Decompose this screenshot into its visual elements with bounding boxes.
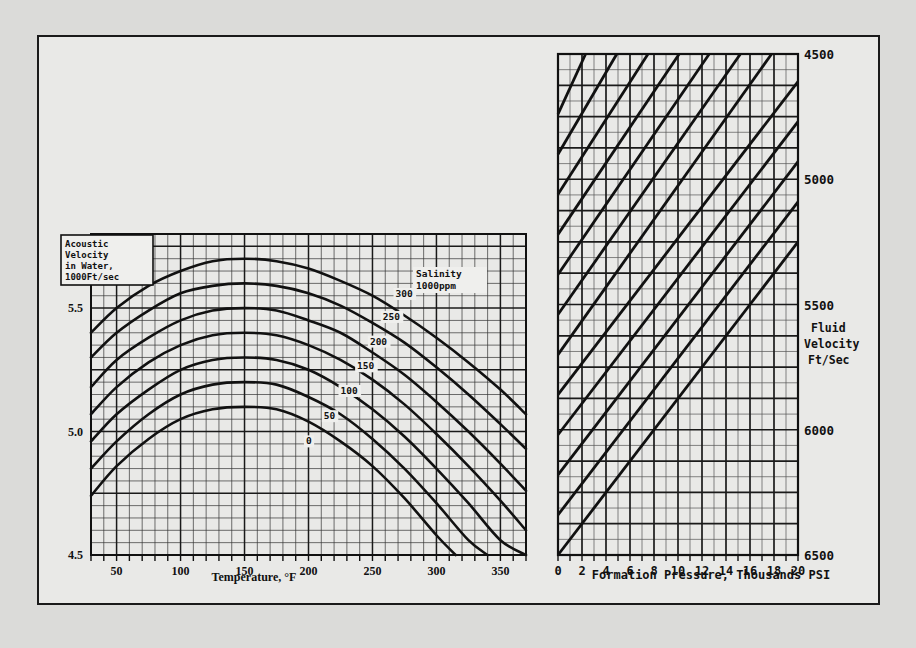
right-chart-y-axis-title: Fluid Velocity Ft/Sec: [804, 321, 859, 367]
salinity-header-line-2: 1000ppm: [416, 280, 456, 291]
right-x-tick-label: 0: [554, 564, 561, 578]
figure-frame: 50100150200250300350 5.55.04.5 300250200…: [37, 35, 880, 605]
left-x-tick-label: 350: [491, 564, 509, 578]
left-chart-y-tick-labels: 5.55.04.5: [68, 301, 83, 562]
left-curve-label: 50: [322, 410, 338, 422]
legend-line-1: Acoustic: [65, 239, 108, 249]
scanned-page: 50100150200250300350 5.55.04.5 300250200…: [0, 0, 916, 648]
right-x-tick-label: 2: [578, 564, 585, 578]
fluid-velocity-line-3: Ft/Sec: [808, 353, 850, 367]
left-x-tick-label: 50: [111, 564, 123, 578]
left-x-tick-label: 300: [427, 564, 445, 578]
left-y-tick-label: 4.5: [68, 548, 83, 562]
salinity-header-line-1: Salinity: [416, 268, 462, 279]
svg-text:0: 0: [306, 435, 312, 446]
left-chart: 50100150200250300350 5.55.04.5 300250200…: [61, 234, 526, 584]
left-curve-label: 100: [338, 385, 361, 397]
left-curve-label: 200: [368, 336, 391, 348]
right-y-tick-label: 5000: [804, 172, 834, 187]
left-chart-x-tick-labels: 50100150200250300350: [111, 564, 510, 578]
svg-text:100: 100: [340, 385, 357, 396]
left-y-tick-label: 5.0: [68, 425, 83, 439]
svg-text:50: 50: [324, 410, 336, 421]
left-curve-label: 150: [355, 360, 378, 372]
left-curve-label: 250: [381, 311, 404, 323]
svg-text:150: 150: [357, 360, 374, 371]
left-x-tick-label: 100: [172, 564, 190, 578]
right-y-tick-label: 5500: [804, 298, 834, 313]
left-chart-x-axis-title: Temperature, °F: [212, 570, 297, 584]
svg-text:200: 200: [370, 336, 387, 347]
right-chart: 02468101214161820 65006000550050004500 F…: [554, 47, 859, 582]
right-y-tick-label: 6500: [804, 548, 834, 563]
left-curve-label: 300: [394, 288, 417, 300]
left-x-tick-label: 250: [363, 564, 381, 578]
right-chart-x-ticks: [558, 555, 798, 561]
legend-line-2: Velocity: [65, 250, 109, 260]
right-y-tick-label: 6000: [804, 423, 834, 438]
legend-line-3: in Water,: [65, 261, 114, 271]
svg-text:300: 300: [396, 288, 413, 299]
salinity-header: Salinity 1000ppm: [413, 267, 487, 293]
right-chart-x-axis-title: Formation Pressure, Thousands PSI: [592, 568, 830, 582]
left-curve-label: 0: [304, 435, 314, 447]
left-chart-legend-box: Acoustic Velocity in Water, 1000Ft/sec: [61, 235, 153, 285]
left-x-tick-label: 200: [300, 564, 318, 578]
right-chart-y-tick-labels: 65006000550050004500: [804, 47, 834, 563]
svg-text:250: 250: [383, 311, 400, 322]
fluid-velocity-line-1: Fluid: [811, 321, 846, 335]
figure-canvas: 50100150200250300350 5.55.04.5 300250200…: [39, 37, 878, 603]
right-y-tick-label: 4500: [804, 47, 834, 62]
legend-line-4: 1000Ft/sec: [65, 272, 119, 282]
left-y-tick-label: 5.5: [68, 301, 83, 315]
fluid-velocity-line-2: Velocity: [804, 337, 859, 351]
